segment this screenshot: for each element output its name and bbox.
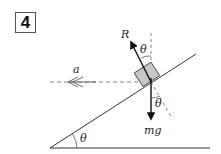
bottom-angle-label: θ [155,97,162,110]
weight-label: mg [144,124,161,137]
top-angle-arc [141,56,151,58]
incline-diagram: θ a R θ mg θ [0,0,221,154]
incline-line [50,54,196,148]
acceleration-arrow-icon [68,77,96,87]
top-angle-label: θ [140,43,147,56]
normal-force-label: R [120,28,129,41]
incline-angle-arc [73,134,78,148]
incline-angle-label: θ [80,132,87,145]
acceleration-label: a [73,63,80,76]
